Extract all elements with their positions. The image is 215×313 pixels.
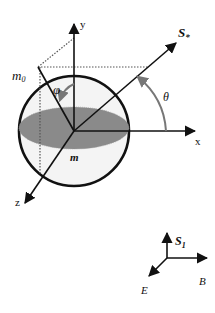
diagram-svg: m0 m y x z S* φ θ S1 B E	[0, 0, 215, 313]
m0-label: m0	[12, 68, 25, 84]
s1-label: S1	[175, 234, 186, 250]
b-label: B	[199, 275, 206, 287]
z-axis-label: z	[15, 196, 20, 208]
diagram-canvas: m0 m y x z S* φ θ S1 B E	[0, 0, 215, 313]
x-axis-label: x	[195, 135, 201, 147]
e-label: E	[140, 284, 148, 296]
theta-label: θ	[163, 90, 169, 104]
theta-arc	[138, 77, 166, 131]
y-axis-label: y	[80, 18, 86, 30]
spin-vector-label: S*	[178, 25, 190, 42]
m-label: m	[70, 151, 79, 163]
phi-label: φ	[53, 82, 60, 97]
